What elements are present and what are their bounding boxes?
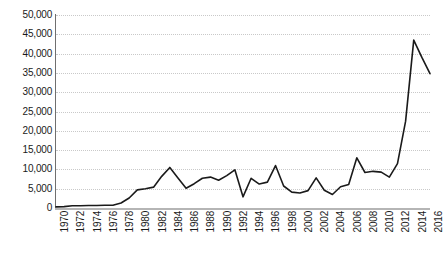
- x-axis-tick-label: 1978: [125, 211, 135, 232]
- y-axis-tick-label: 50,000: [0, 10, 52, 20]
- x-axis-tick-label: 2004: [336, 211, 346, 232]
- x-axis-tick-label: 1974: [93, 211, 103, 232]
- y-axis-tick-label: 15,000: [0, 145, 52, 155]
- y-axis-tick-label: 30,000: [0, 87, 52, 97]
- x-axis-tick-label: 1998: [288, 211, 298, 232]
- x-axis-tick-label: 1976: [109, 211, 119, 232]
- y-axis-tick-label: 45,000: [0, 29, 52, 39]
- y-axis-tick-label: 35,000: [0, 68, 52, 78]
- x-axis-tick-label: 1972: [76, 211, 86, 232]
- x-axis-tick-label: 1986: [190, 211, 200, 232]
- y-axis-tick-label: 0: [0, 203, 52, 213]
- y-axis-tick-labels: 05,00010,00015,00020,00025,00030,00035,0…: [0, 0, 52, 255]
- series-polyline: [56, 40, 430, 207]
- x-axis-tick-label: 2000: [304, 211, 314, 232]
- y-axis-tick-label: 40,000: [0, 49, 52, 59]
- y-axis-tick-label: 20,000: [0, 126, 52, 136]
- x-axis-tick-label: 2008: [369, 211, 379, 232]
- x-axis-tick-label: 2012: [401, 211, 411, 232]
- plot-area: [56, 15, 430, 208]
- x-axis-tick-label: 2002: [320, 211, 330, 232]
- x-axis-tick-label: 1996: [271, 211, 281, 232]
- x-axis-tick-label: 2006: [353, 211, 363, 232]
- y-axis-tick-label: 10,000: [0, 164, 52, 174]
- x-axis-tick-label: 1992: [239, 211, 249, 232]
- x-axis-tick-label: 2014: [418, 211, 428, 232]
- x-axis-tick-labels: 1970197219741976197819801982198419861988…: [56, 211, 430, 255]
- y-axis-tick-label: 5,000: [0, 184, 52, 194]
- x-axis-line: [55, 208, 430, 210]
- x-axis-tick-label: 1990: [223, 211, 233, 232]
- x-axis-tick-label: 1980: [141, 211, 151, 232]
- x-axis-tick-label: 2010: [385, 211, 395, 232]
- x-axis-tick-label: 2016: [434, 211, 444, 232]
- x-axis-tick-label: 1994: [255, 211, 265, 232]
- x-axis-tick-label: 1988: [206, 211, 216, 232]
- y-axis-tick-label: 25,000: [0, 107, 52, 117]
- x-axis-tick-label: 1984: [174, 211, 184, 232]
- x-axis-tick-label: 1970: [60, 211, 70, 232]
- series-line-chart-data: [56, 15, 430, 208]
- x-axis-tick-label: 1982: [158, 211, 168, 232]
